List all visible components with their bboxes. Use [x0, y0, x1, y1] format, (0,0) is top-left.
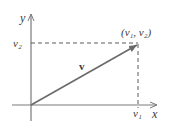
- endpoint-label: (v₁, v₂): [121, 26, 152, 39]
- vector-diagram: y x v₂ v₁ (v₁, v₂) v: [0, 0, 170, 128]
- vector-arrow: [31, 45, 137, 105]
- v2-label: v₂: [13, 37, 22, 49]
- x-axis-label: x: [151, 107, 158, 121]
- y-axis-label: y: [19, 11, 26, 25]
- vector-label: v: [79, 60, 85, 72]
- v1-label: v₁: [133, 107, 142, 119]
